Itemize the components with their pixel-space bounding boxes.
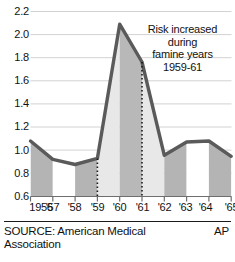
annotation-line-3: famine years (131, 48, 234, 61)
y-tick-1-8: 1.8 (3, 52, 29, 63)
annotation-line-2: during (131, 36, 234, 49)
x-tick-58: '58 (62, 201, 87, 214)
famine-annotation: Risk increased during famine years 1959-… (131, 23, 234, 73)
y-tick-0-8: 0.8 (3, 168, 29, 179)
x-tick-60: '60 (107, 201, 132, 214)
y-tick-1-2: 1.2 (3, 121, 29, 132)
chart-figure: 2.2 2.0 1.8 1.6 1.4 1.2 1.0 0.8 0.6 1956… (0, 0, 235, 262)
chart-footer: SOURCE: American Medical Association AP (0, 221, 235, 262)
x-axis-labels: 1956 '57 '58 '59 '60 '61 '62 '63 '64 '65 (30, 201, 231, 216)
x-tick-64: '64 (193, 201, 218, 214)
y-axis-labels: 2.2 2.0 1.8 1.6 1.4 1.2 1.0 0.8 0.6 (0, 0, 29, 218)
footer-divider (4, 221, 231, 222)
annotation-line-4: 1959-61 (131, 61, 234, 74)
ap-credit-label: AP (214, 225, 229, 238)
y-tick-1-6: 1.6 (3, 75, 29, 86)
y-tick-2-2: 2.2 (3, 6, 29, 17)
plot-area: 2.2 2.0 1.8 1.6 1.4 1.2 1.0 0.8 0.6 1956… (0, 0, 235, 218)
x-tick-65: '65 (219, 201, 235, 214)
source-label: SOURCE: American Medical Association (4, 225, 179, 251)
y-tick-1-4: 1.4 (3, 98, 29, 109)
y-tick-2-0: 2.0 (3, 29, 29, 40)
annotation-line-1: Risk increased (131, 23, 234, 36)
y-tick-1-0: 1.0 (3, 145, 29, 156)
